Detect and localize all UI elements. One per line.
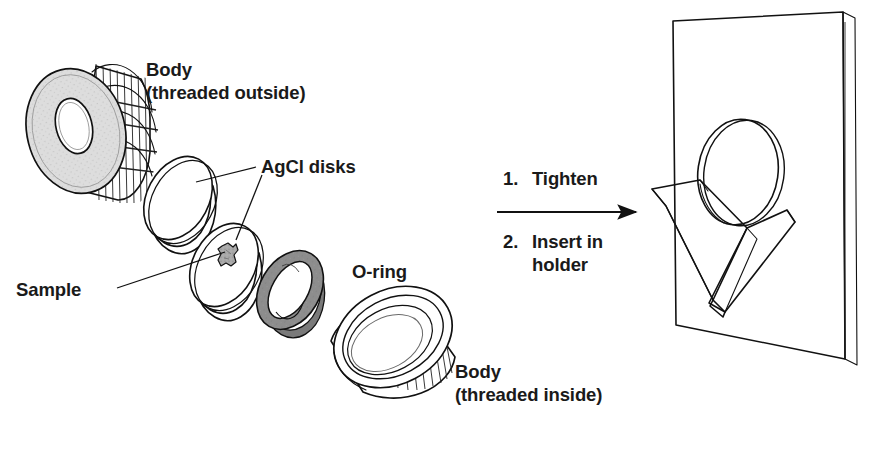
o-ring-label: O-ring bbox=[352, 261, 407, 282]
process-step-2: 2. Insert in holder bbox=[503, 231, 603, 275]
body-inside-label-line2: (threaded inside) bbox=[455, 384, 602, 405]
part-body-threaded-inside bbox=[316, 266, 470, 407]
part-assembled-cell bbox=[691, 114, 791, 231]
agcl-disks-label: AgCl disks bbox=[261, 156, 356, 177]
part-sample bbox=[218, 243, 238, 266]
process-step-1: 1. Tighten bbox=[503, 168, 598, 189]
body-outside-label-line1: Body bbox=[146, 59, 193, 80]
step-2-text-line2: holder bbox=[532, 254, 588, 275]
part-body-threaded-outside bbox=[13, 58, 158, 204]
step-1-text: Tighten bbox=[532, 168, 598, 189]
label-body-threaded-outside: Body (threaded outside) bbox=[146, 59, 306, 103]
step-2-text: Insert in bbox=[532, 231, 603, 252]
diagram-root: Body (threaded outside) AgCl disks bbox=[0, 0, 876, 454]
label-body-threaded-inside: Body (threaded inside) bbox=[455, 361, 602, 405]
step-2-number: 2. bbox=[503, 231, 518, 252]
sample-label: Sample bbox=[16, 279, 81, 300]
body-inside-label-line1: Body bbox=[455, 361, 502, 382]
diagram-canvas: Body (threaded outside) AgCl disks bbox=[0, 0, 876, 454]
part-holder-assembly bbox=[652, 12, 857, 365]
body-outside-label-line2: (threaded outside) bbox=[146, 82, 306, 103]
step-1-number: 1. bbox=[503, 168, 518, 189]
